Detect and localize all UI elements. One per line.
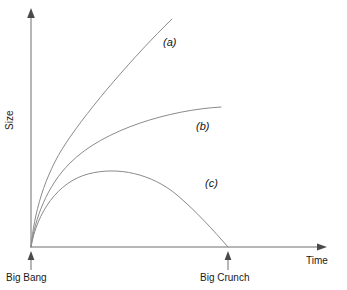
x-axis-label: Time bbox=[306, 255, 328, 266]
big-bang-label: Big Bang bbox=[6, 272, 47, 283]
curve-label-c: (c) bbox=[205, 178, 218, 189]
curve-label-b: (b) bbox=[196, 121, 209, 132]
big-crunch-label: Big Crunch bbox=[200, 272, 249, 283]
curve-b-flat-universe bbox=[31, 107, 221, 247]
x-axis-arrow-icon bbox=[317, 243, 327, 250]
big-bang-arrow-icon bbox=[28, 251, 35, 260]
big-crunch-arrow-icon bbox=[225, 251, 232, 260]
curve-a-open-universe bbox=[31, 19, 172, 247]
curve-c-closed-universe bbox=[31, 171, 228, 247]
universe-expansion-diagram: (a) (b) (c) Time Size Big Bang Big Crunc… bbox=[0, 0, 347, 290]
curve-label-a: (a) bbox=[163, 37, 176, 48]
y-axis-arrow-icon bbox=[27, 8, 35, 18]
y-axis-label: Size bbox=[4, 111, 15, 130]
